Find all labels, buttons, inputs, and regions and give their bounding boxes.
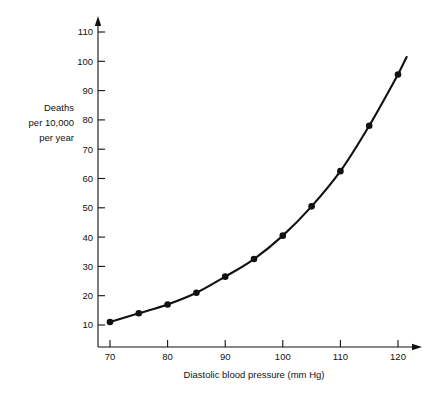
- x-axis-ticks: 708090100110120: [105, 340, 406, 362]
- y-axis-label: Deathsper 10,000per year: [29, 102, 75, 143]
- data-point-105: [308, 203, 315, 210]
- y-tick-label-40: 40: [82, 232, 93, 243]
- y-tick-label-100: 100: [77, 56, 93, 67]
- y-axis-label-line-2: per 10,000: [29, 117, 74, 128]
- y-tick-label-30: 30: [82, 261, 93, 272]
- data-point-70: [107, 319, 114, 326]
- y-tick-label-10: 10: [82, 319, 93, 330]
- data-point-110: [337, 168, 344, 175]
- series-line: [110, 57, 407, 322]
- y-tick-label-80: 80: [82, 114, 93, 125]
- chart-container: 102030405060708090100110 708090100110120…: [0, 0, 434, 407]
- x-tick-label-100: 100: [275, 351, 291, 362]
- axes: [95, 16, 422, 350]
- y-axis-label-line-3: per year: [39, 132, 74, 143]
- x-tick-label-80: 80: [162, 351, 173, 362]
- y-tick-label-50: 50: [82, 202, 93, 213]
- data-point-90: [222, 273, 229, 280]
- y-tick-label-20: 20: [82, 290, 93, 301]
- data-point-85: [193, 289, 200, 296]
- x-axis-label-text: Diastolic blood pressure (mm Hg): [184, 369, 325, 380]
- y-tick-label-90: 90: [82, 85, 93, 96]
- x-tick-label-120: 120: [390, 351, 406, 362]
- line-chart: 102030405060708090100110 708090100110120…: [0, 0, 434, 407]
- data-point-120: [395, 71, 402, 78]
- y-axis-label-line-1: Deaths: [44, 102, 74, 113]
- x-tick-label-90: 90: [220, 351, 231, 362]
- data-point-100: [280, 232, 287, 239]
- y-tick-label-60: 60: [82, 173, 93, 184]
- x-axis-arrow-icon: [412, 344, 422, 350]
- x-tick-label-70: 70: [105, 351, 116, 362]
- x-tick-label-110: 110: [333, 351, 348, 362]
- data-point-115: [366, 122, 373, 129]
- y-tick-label-110: 110: [78, 26, 93, 37]
- data-point-95: [251, 256, 258, 263]
- data-curve: [110, 57, 407, 322]
- data-point-80: [164, 301, 171, 308]
- y-tick-label-70: 70: [82, 144, 93, 155]
- x-axis-label: Diastolic blood pressure (mm Hg): [184, 369, 325, 380]
- y-axis-ticks: 102030405060708090100110: [77, 26, 105, 330]
- data-point-75: [136, 310, 143, 317]
- data-points: [107, 71, 402, 325]
- y-axis-arrow-icon: [95, 16, 101, 26]
